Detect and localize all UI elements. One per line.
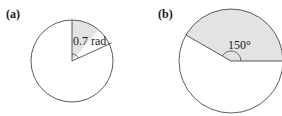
panel-a-angle-label: 0.7 rad bbox=[73, 34, 106, 48]
panel-a-label: (a) bbox=[6, 7, 20, 21]
sector-diagram: (a) 0.7 rad (b) 150° bbox=[0, 0, 282, 116]
panel-b-angle-label: 150° bbox=[228, 38, 251, 52]
panel-b: (b) 150° bbox=[158, 7, 282, 113]
panel-b-label: (b) bbox=[158, 7, 173, 21]
panel-b-sector bbox=[186, 9, 282, 61]
panel-a: (a) 0.7 rad bbox=[6, 7, 113, 102]
